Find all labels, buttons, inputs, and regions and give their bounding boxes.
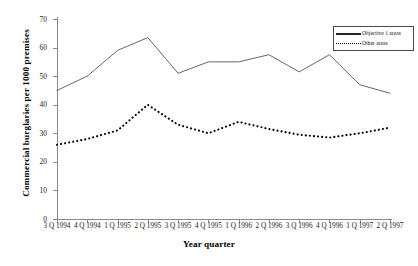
legend-item-objective-1-areas: Objective 1 areas xyxy=(334,29,413,39)
x-axis-tick-labels: 3 Q 19944 Q 19941 Q 19952 Q 19953 Q 1995… xyxy=(0,222,418,236)
legend-label-objective-1-areas: Objective 1 areas xyxy=(362,30,401,36)
chart-figure: Commercial burglaries per 1000 premises … xyxy=(0,0,418,266)
legend-item-other-areas: Other areas xyxy=(334,39,413,49)
legend-swatch-solid-line xyxy=(336,33,361,35)
x-axis-tick-label: 2 Q 1997 xyxy=(362,222,418,230)
series-line-other-areas xyxy=(57,105,390,145)
legend-swatch-dotted-line xyxy=(336,43,361,46)
legend-label-other-areas: Other areas xyxy=(362,40,388,46)
x-axis-title: Year quarter xyxy=(0,239,418,249)
chart-legend: Objective 1 areas Other areas xyxy=(333,26,414,51)
